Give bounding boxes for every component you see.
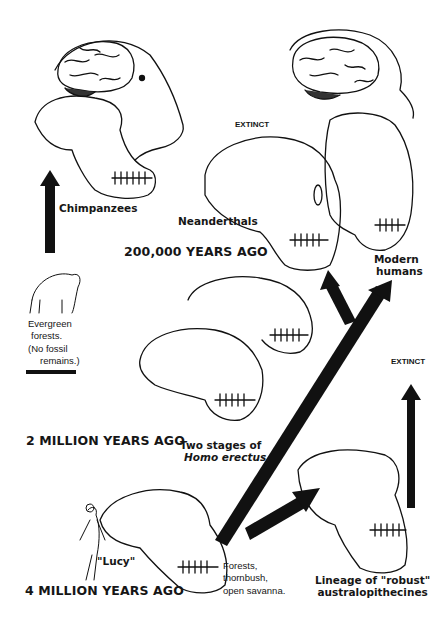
habitat-line: Forests, bbox=[223, 560, 285, 572]
robust-line2: australopithecines bbox=[315, 586, 430, 598]
neanderthal-branch-arrow bbox=[325, 282, 356, 325]
modern-humans-label: Modern humans bbox=[370, 253, 423, 277]
chimpanzee-habitat-label: Evergreen forests. (No fossil remains.) bbox=[28, 318, 80, 367]
era-2-million-years-label: 2 MILLION YEARS AGO bbox=[26, 434, 185, 448]
chimp-base-bar bbox=[26, 370, 76, 374]
lucy-skull-icon bbox=[100, 490, 227, 593]
robust-extinct-arrow bbox=[407, 398, 415, 508]
lucy-habitat-label: Forests, thornbush, open savanna. bbox=[223, 560, 285, 597]
era-4-million-years-label: 4 MILLION YEARS AGO bbox=[25, 584, 184, 598]
modern-humans-line2: humans bbox=[370, 265, 423, 277]
robust-australopithecines-label: Lineage of "robust" australopithecines bbox=[315, 574, 430, 598]
homo-erectus-line2: Homo erectus. bbox=[180, 451, 270, 463]
homo-erectus-line1: Two stages of bbox=[180, 439, 270, 451]
habitat-line: forests. bbox=[28, 330, 80, 342]
evolution-diagram: Chimpanzees EXTINCT Neanderthals 200,000… bbox=[0, 0, 448, 623]
homo-erectus-skull-icon bbox=[140, 277, 313, 421]
robust-australopithecine-skull-icon bbox=[298, 450, 407, 573]
robust-line1: Lineage of "robust" bbox=[315, 574, 430, 586]
homo-erectus-label: Two stages of Homo erectus. bbox=[180, 439, 270, 463]
habitat-line: remains.) bbox=[28, 355, 80, 367]
habitat-line: open savanna. bbox=[223, 585, 285, 597]
lucy-figure-icon bbox=[80, 504, 105, 580]
human-head-icon bbox=[290, 30, 413, 250]
habitat-line: thornbush, bbox=[223, 572, 285, 584]
era-200000-years-label: 200,000 YEARS AGO bbox=[124, 245, 268, 259]
chimpanzee-figure-icon bbox=[30, 274, 80, 313]
neanderthal-extinct-label: EXTINCT bbox=[235, 120, 269, 129]
chimpanzees-label: Chimpanzees bbox=[59, 202, 137, 214]
chimpanzee-head-icon bbox=[35, 41, 183, 198]
lucy-label: "Lucy" bbox=[97, 555, 135, 567]
chimp-lineage-arrow bbox=[45, 185, 55, 253]
robust-extinct-label: EXTINCT bbox=[391, 357, 425, 366]
diagram-artwork bbox=[0, 0, 448, 623]
habitat-line: Evergreen bbox=[28, 318, 80, 330]
modern-humans-line1: Modern bbox=[370, 253, 423, 265]
neanderthals-label: Neanderthals bbox=[178, 215, 258, 227]
habitat-line: (No fossil bbox=[28, 343, 80, 355]
